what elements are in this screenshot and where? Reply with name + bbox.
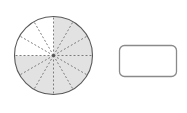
sectored-circle: [15, 17, 93, 95]
circle-center-dot: [52, 54, 55, 57]
blank-rounded-rectangle: [120, 46, 177, 77]
rounded-rect-outline: [120, 46, 177, 77]
figure-canvas: [0, 0, 187, 113]
figure-svg: [0, 0, 187, 113]
